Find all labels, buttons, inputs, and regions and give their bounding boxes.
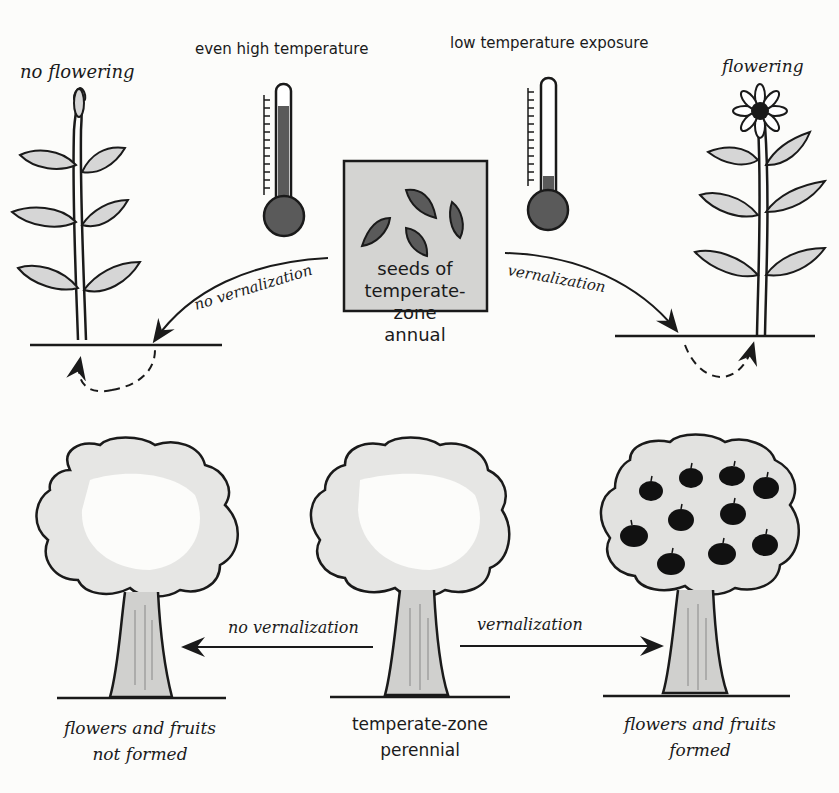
even-high-temp-label: even high temperature [195, 40, 368, 58]
seeds-label-line1: seeds of [377, 258, 453, 279]
fruiting-tree-icon [601, 435, 799, 694]
dashed-growth-arrow-icon [685, 345, 753, 377]
right-caption-line2: formed [667, 740, 731, 760]
tree-without-fruit-icon [36, 438, 237, 698]
seeds-label-line3: zone [394, 302, 437, 323]
left-caption-line1: flowers and fruits [62, 718, 216, 738]
dashed-growth-arrow-icon [79, 360, 112, 391]
top-vernalization-label: vernalization [506, 261, 607, 296]
perennial-tree-icon [311, 438, 509, 696]
seeds-label-line4: annual [384, 324, 445, 345]
low-temp-exposure-label: low temperature exposure [450, 34, 648, 52]
seeds-label-line2: temperate- [364, 280, 465, 301]
vernalization-diagram: no flowering even high temperature low t… [0, 0, 839, 793]
thermometer-high-icon [264, 84, 304, 236]
non-flowering-plant-icon [12, 88, 140, 340]
perennial-label-line2: perennial [380, 740, 460, 760]
left-caption-line2: not formed [92, 744, 187, 764]
seeds-box: seeds of temperate- zone annual [344, 161, 487, 345]
right-caption-line1: flowers and fruits [622, 714, 776, 734]
flowering-label: flowering [720, 56, 804, 76]
top-no-vernalization-label: no vernalization [192, 261, 314, 314]
bottom-no-vernalization-label: no vernalization [228, 618, 359, 637]
perennial-label-line1: temperate-zone [352, 714, 488, 734]
thermometer-low-icon [528, 78, 568, 230]
no-flowering-label: no flowering [20, 61, 135, 82]
flowering-plant-icon [695, 84, 825, 335]
bottom-vernalization-label: vernalization [477, 615, 583, 634]
